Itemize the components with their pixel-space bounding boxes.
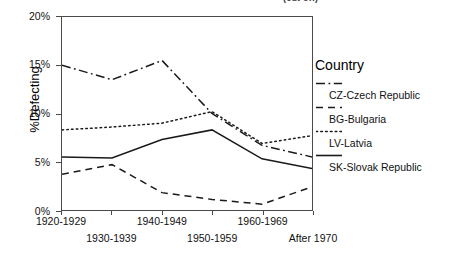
x-tick-label: 1960-1969 [226,216,300,227]
legend-entries: CZ-Czech RepublicBG-BulgariaLV-LatviaSK-… [315,79,450,174]
y-tick-label: 20% [16,11,50,21]
x-tick-label: 1920-1929 [24,216,98,227]
legend-swatch-dotted [316,127,342,136]
x-tick-label: 1940-1949 [125,216,199,227]
legend-label: LV-Latvia [315,137,450,150]
legend-label: CZ-Czech Republic [315,89,450,102]
series-line-3 [62,130,312,169]
legend-entry[interactable]: BG-Bulgaria [315,103,450,126]
legend-label: BG-Bulgaria [315,113,450,126]
plot-area [61,16,313,211]
y-tick-label: 15% [16,59,50,69]
x-tick-mark [313,211,314,215]
x-tick-label: 1950-1959 [175,233,249,244]
y-tick-label: 5% [16,157,50,167]
x-tick-mark [111,211,112,215]
legend-title: Country [315,57,450,73]
legend-entry[interactable]: LV-Latvia [315,127,450,150]
series-line-1 [62,165,312,205]
x-tick-label: After 1970 [276,233,350,244]
series-line-0 [62,60,312,157]
series-lines [62,17,312,210]
legend-swatch-dash-dot [316,79,342,88]
y-tick-label: 0% [16,206,50,216]
legend-label: SK-Slovak Republic [315,161,450,174]
legend: Country CZ-Czech RepublicBG-BulgariaLV-L… [315,57,450,175]
legend-entry[interactable]: SK-Slovak Republic [315,151,450,174]
chart-root: (cut off) %Defecting 0%5%10%15%20% 1920-… [0,0,450,273]
cut-off-title-artifact: (cut off) [283,0,411,6]
legend-swatch-solid [316,151,342,160]
y-tick-label: 10% [16,108,50,118]
x-tick-label: 1930-1939 [74,233,148,244]
legend-entry[interactable]: CZ-Czech Republic [315,79,450,102]
x-tick-mark [212,211,213,215]
series-line-2 [62,112,312,144]
cut-off-title-text: (cut off) [283,0,318,3]
legend-swatch-dashed [316,103,342,112]
